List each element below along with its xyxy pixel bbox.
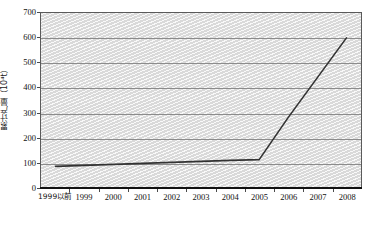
x-tick-label: 2004: [222, 192, 239, 202]
y-tick-label: 400: [12, 83, 36, 92]
line-chart: 累计产量（10⁴t） 0100200300400500600700 1999以前…: [0, 0, 370, 226]
data-series-layer: [41, 13, 361, 187]
x-tick-label: 1999以前: [38, 192, 71, 202]
x-axis-tick-labels: 1999以前1999200020012002200320042005200620…: [0, 192, 370, 208]
y-tick-mark: [37, 62, 40, 63]
y-tick-label: 100: [12, 159, 36, 168]
plot-area: [40, 12, 362, 188]
x-tick-label: 2006: [280, 192, 297, 202]
x-tick-label: 2005: [251, 192, 268, 202]
y-tick-label: 500: [12, 58, 36, 67]
y-tick-mark: [37, 37, 40, 38]
y-tick-label: 700: [12, 8, 36, 17]
x-tick-label: 1999: [75, 192, 92, 202]
y-axis-title-text: 累计产量（10⁴t）: [0, 65, 9, 130]
y-tick-mark: [37, 87, 40, 88]
y-tick-mark: [37, 113, 40, 114]
y-tick-mark: [37, 163, 40, 164]
x-tick-label: 2002: [163, 192, 180, 202]
x-tick-label: 2001: [134, 192, 151, 202]
series-line: [56, 38, 347, 167]
y-tick-mark: [37, 188, 40, 189]
y-tick-mark: [37, 138, 40, 139]
y-tick-label: 300: [12, 109, 36, 118]
y-tick-label: 200: [12, 134, 36, 143]
x-axis-line: [40, 187, 362, 189]
y-tick-label: 600: [12, 33, 36, 42]
y-tick-mark: [37, 12, 40, 13]
x-tick-label: 2008: [339, 192, 356, 202]
x-tick-label: 2003: [193, 192, 210, 202]
x-tick-label: 2000: [105, 192, 122, 202]
x-tick-label: 2007: [310, 192, 327, 202]
